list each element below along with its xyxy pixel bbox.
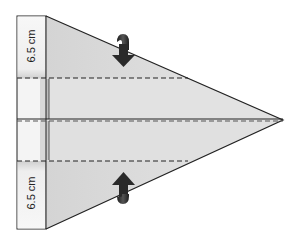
bottom-measure-label: 6.5 cm	[25, 168, 37, 218]
paper-airplane-diagram	[0, 0, 298, 239]
top-measure-label: 6.5 cm	[25, 21, 37, 71]
airplane-body	[46, 16, 283, 229]
